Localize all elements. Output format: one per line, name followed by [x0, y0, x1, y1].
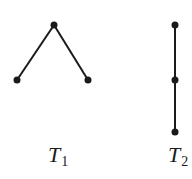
node-t1-c — [85, 77, 92, 84]
tree-t2-label: T2 — [168, 142, 188, 169]
node-t2-e — [172, 77, 179, 84]
node-t2-d — [172, 22, 179, 29]
edge-t1-a-b — [17, 25, 54, 80]
node-t1-a — [51, 22, 58, 29]
tree-t1-label: T1 — [48, 142, 68, 169]
node-t1-b — [14, 77, 21, 84]
node-t2-f — [172, 129, 179, 136]
trees-diagram: T1 T2 — [0, 0, 192, 179]
tree-t1: T1 — [14, 22, 92, 170]
tree-t2: T2 — [168, 22, 188, 170]
edge-t1-a-c — [54, 25, 88, 80]
